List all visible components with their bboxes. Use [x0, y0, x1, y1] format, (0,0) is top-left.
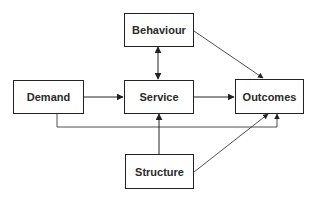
- node-label: Structure: [135, 166, 184, 178]
- node-label: Outcomes: [243, 91, 297, 103]
- node-structure: Structure: [125, 154, 194, 189]
- node-label: Behaviour: [132, 24, 186, 36]
- node-label: Demand: [27, 91, 70, 103]
- edge-demand-outcomes: [57, 114, 277, 127]
- edge-behaviour-outcomes: [194, 31, 263, 78]
- node-behaviour: Behaviour: [124, 13, 194, 47]
- node-demand: Demand: [13, 80, 84, 114]
- node-service: Service: [124, 80, 194, 114]
- node-label: Service: [139, 91, 178, 103]
- edge-structure-outcomes: [194, 114, 268, 172]
- node-outcomes: Outcomes: [235, 79, 304, 114]
